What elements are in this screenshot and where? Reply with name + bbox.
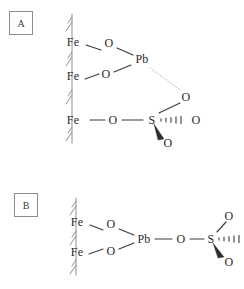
bond-o-middle-pb	[114, 65, 131, 72]
bond-fe-top-o-top-b	[90, 225, 103, 230]
bond-s-o-down-wedge	[154, 124, 164, 140]
bond-fe-top-o-top	[86, 45, 101, 50]
atom-a-s: S	[149, 114, 156, 126]
atom-a-o-top: O	[105, 37, 114, 49]
atom-b-fe-top: Fe	[71, 216, 83, 228]
atom-b-o-sulfate-up: O	[225, 210, 234, 222]
bond-s-o-up-b	[217, 222, 226, 232]
atom-a-o-sulfate-right: O	[192, 114, 201, 126]
bond-s-o-right-hashed-b	[219, 235, 239, 243]
diagram-root: A Fe Fe Fe O O O Pb S O O O B Fe Fe O O …	[0, 0, 244, 289]
bond-o-bottom-pb-b	[119, 243, 134, 249]
panel-label-a: A	[9, 11, 33, 35]
bond-s-o-down-wedge-b	[213, 243, 224, 258]
bond-s-o-up	[159, 103, 180, 113]
atom-a-o-middle: O	[102, 68, 111, 80]
atom-b-fe-bottom: Fe	[71, 246, 83, 258]
atom-b-o-chain: O	[177, 233, 186, 245]
atom-b-o-top: O	[107, 218, 116, 230]
bond-fe-middle-o-middle	[85, 74, 99, 79]
atom-a-pb: Pb	[135, 53, 148, 65]
bond-fe-bottom-o-bottom-b	[89, 249, 103, 254]
atom-a-fe-bottom: Fe	[67, 114, 79, 126]
mineral-surface-b	[70, 198, 76, 275]
atom-b-pb: Pb	[137, 233, 150, 245]
atom-a-o-chain: O	[109, 114, 118, 126]
bond-pb-o-sulfate-up	[150, 68, 180, 90]
atom-a-fe-middle: Fe	[67, 70, 79, 82]
bond-o-top-pb	[117, 48, 133, 55]
panel-label-b: B	[14, 193, 38, 217]
bond-o-top-pb-b	[119, 229, 134, 235]
panel-a-bonds	[85, 45, 181, 140]
atom-a-o-sulfate-down: O	[164, 137, 173, 149]
atom-a-o-sulfate-up: O	[182, 91, 191, 103]
surface-hatch-marks-b	[70, 201, 76, 274]
atom-b-o-bottom: O	[107, 245, 116, 257]
atom-b-s: S	[208, 233, 215, 245]
atom-b-o-sulfate-down: O	[225, 256, 234, 268]
atom-a-fe-top: Fe	[67, 36, 79, 48]
bond-s-o-right-hashed	[161, 116, 181, 124]
